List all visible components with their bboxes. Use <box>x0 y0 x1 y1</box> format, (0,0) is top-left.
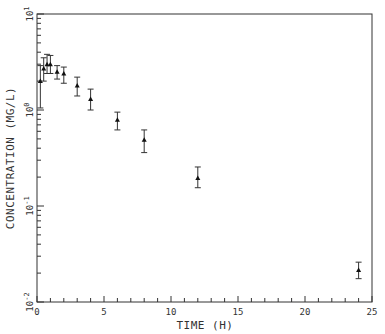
y-axis-label: CONCENTRATION (MG/L) <box>4 87 17 229</box>
triangle-marker-icon <box>75 83 80 88</box>
triangle-marker-icon <box>48 62 53 67</box>
data-point <box>114 112 120 130</box>
y-tick-label: 10-2 <box>23 292 35 311</box>
data-point <box>88 89 94 110</box>
y-tick-label: 100 <box>23 102 35 117</box>
triangle-marker-icon <box>115 117 120 122</box>
x-tick-label: 20 <box>300 307 311 317</box>
x-tick-label: 15 <box>233 307 244 317</box>
x-axis-label: TIME (H) <box>177 319 234 332</box>
data-point <box>54 66 60 79</box>
plot-frame <box>37 14 372 302</box>
y-tick-label: 101 <box>23 6 35 21</box>
x-tick-label: 10 <box>166 307 177 317</box>
triangle-marker-icon <box>356 267 361 272</box>
data-point <box>61 67 67 83</box>
data-point <box>141 130 147 153</box>
x-tick-label: 0 <box>34 307 39 317</box>
concentration-time-chart: 0510152025 10-210-1100101 TIME (H) CONCE… <box>0 0 385 334</box>
data-point <box>195 167 201 188</box>
triangle-marker-icon <box>55 69 60 74</box>
data-point <box>41 58 47 81</box>
y-tick-label-text: 100 <box>23 102 35 117</box>
x-axis-ticks: 0510152025 <box>34 296 377 317</box>
y-tick-exponent: -2 <box>23 292 31 300</box>
y-tick-label-text: 10-1 <box>23 196 35 215</box>
data-point <box>356 262 362 279</box>
y-tick-label-text: 101 <box>23 6 35 21</box>
x-tick-label: 25 <box>367 307 378 317</box>
y-tick-exponent: -1 <box>23 196 31 204</box>
data-point <box>44 54 50 73</box>
data-point <box>37 66 43 108</box>
triangle-marker-icon <box>88 97 93 102</box>
triangle-marker-icon <box>61 71 66 76</box>
triangle-marker-icon <box>142 137 147 142</box>
triangle-marker-icon <box>195 175 200 180</box>
data-series <box>37 54 361 278</box>
data-point <box>74 77 80 96</box>
y-tick-exponent: 0 <box>23 102 31 106</box>
x-tick-label: 5 <box>101 307 106 317</box>
triangle-marker-icon <box>41 66 46 71</box>
y-tick-exponent: 1 <box>23 6 31 10</box>
plot-border <box>37 14 372 302</box>
y-axis-ticks: 10-210-1100101 <box>23 6 44 311</box>
y-tick-label-text: 10-2 <box>23 292 35 311</box>
y-tick-label: 10-1 <box>23 196 35 215</box>
